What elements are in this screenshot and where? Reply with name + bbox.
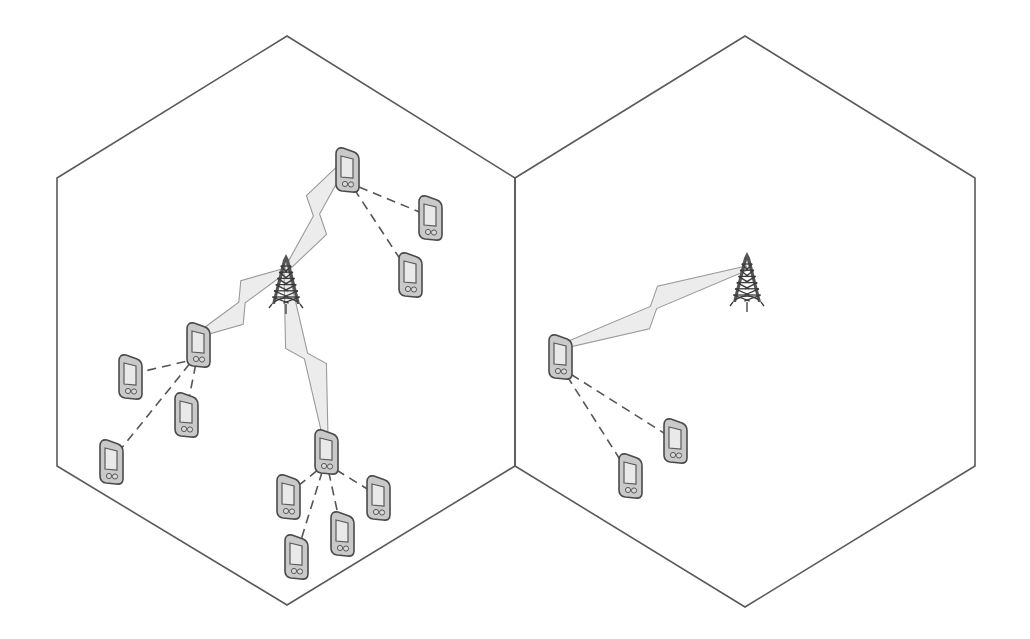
user-device-icon [619, 454, 642, 498]
cell-tower-icon [269, 254, 303, 314]
d2d-link [359, 187, 419, 212]
d2d-link [336, 470, 369, 490]
user-device-icon [419, 196, 442, 240]
user-device-icon [119, 355, 142, 399]
cell-hexagon [515, 36, 975, 607]
user-device-icon [331, 512, 354, 556]
network-diagram [0, 0, 1030, 639]
user-device-icon [664, 419, 687, 463]
user-device-icon [175, 393, 198, 437]
cell-boundaries [57, 36, 975, 607]
cellular-links [197, 159, 748, 443]
relay-device-icon [187, 323, 210, 367]
cell-tower-icon [730, 252, 764, 312]
relay-device-icon [315, 430, 338, 474]
d2d-link [354, 189, 404, 265]
d2d-link [141, 362, 185, 372]
devices [100, 148, 687, 579]
user-device-icon [285, 535, 308, 579]
relay-device-icon [549, 335, 572, 379]
user-device-icon [100, 440, 123, 484]
d2d-link [567, 376, 624, 465]
user-device-icon [399, 253, 422, 297]
relay-device-icon [336, 148, 359, 192]
wireless-link-icon [284, 270, 328, 443]
diagram-canvas [0, 0, 1030, 639]
wireless-link-icon [559, 266, 748, 349]
user-device-icon [277, 475, 300, 519]
user-device-icon [367, 476, 390, 520]
